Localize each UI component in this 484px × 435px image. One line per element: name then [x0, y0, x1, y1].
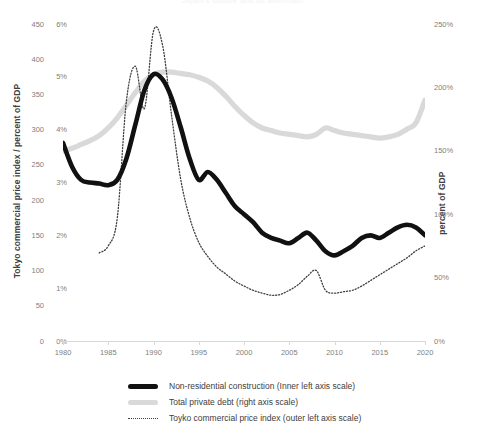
axis-tick-label: 50: [22, 301, 44, 310]
x-axis-tick-label: 2000: [227, 348, 261, 357]
chart-legend: Non-residential construction (Inner left…: [128, 378, 428, 426]
axis-tick-label: 0%: [434, 337, 464, 346]
x-axis-tick-label: 2005: [272, 348, 306, 357]
x-axis-line: [63, 341, 425, 342]
x-axis-tick-label: 1990: [137, 348, 171, 357]
axis-tick-label: 250: [22, 160, 44, 169]
chart-title: Japan's bubble and its aftermath: [0, 0, 484, 5]
x-axis-tick-label: 1995: [182, 348, 216, 357]
series-line-tokyo-commercial-price-index: [99, 27, 425, 296]
series-line-non-residential-construction: [63, 74, 425, 256]
x-axis-tick-label: 2010: [318, 348, 352, 357]
y-axis-title-left: Tokyo commercial price index / percent o…: [12, 71, 22, 291]
legend-marker-icon: [128, 380, 158, 392]
legend-item-label: Toyko commercial price index (outer left…: [169, 413, 361, 423]
legend-item[interactable]: Toyko commercial price index (outer left…: [128, 410, 428, 426]
axis-tick-label: 350: [22, 90, 44, 99]
x-axis-tick-label: 2015: [363, 348, 397, 357]
legend-item-label: Total private debt (right axis scale): [169, 397, 298, 407]
axis-tick-label: 250%: [434, 20, 464, 29]
x-axis-tick-label: 1985: [91, 348, 125, 357]
axis-tick-label: 100%: [434, 210, 464, 219]
legend-item[interactable]: Total private debt (right axis scale): [128, 394, 428, 410]
axis-tick-label: 150%: [434, 146, 464, 155]
series-canvas: [63, 24, 425, 341]
x-axis-tick-label: 1980: [46, 348, 80, 357]
chart-root: Japan's bubble and its aftermath Tokyo c…: [0, 0, 484, 435]
legend-marker-icon: [128, 396, 158, 408]
axis-tick-label: 100: [22, 266, 44, 275]
axis-tick-label: 0: [22, 337, 44, 346]
legend-marker-icon: [128, 412, 158, 424]
plot-area: [63, 24, 425, 341]
axis-tick-label: 50%: [434, 273, 464, 282]
series-line-total-private-debt: [63, 72, 425, 151]
axis-tick-label: 400: [22, 55, 44, 64]
axis-tick-label: 200%: [434, 83, 464, 92]
axis-tick-label: 150: [22, 231, 44, 240]
x-axis-tick-mark: [425, 341, 426, 345]
axis-tick-label: 450: [22, 20, 44, 29]
legend-item-label: Non-residential construction (Inner left…: [169, 381, 355, 391]
axis-tick-label: 300: [22, 125, 44, 134]
legend-item[interactable]: Non-residential construction (Inner left…: [128, 378, 428, 394]
axis-tick-label: 200: [22, 196, 44, 205]
x-axis-tick-label: 2020: [408, 348, 442, 357]
